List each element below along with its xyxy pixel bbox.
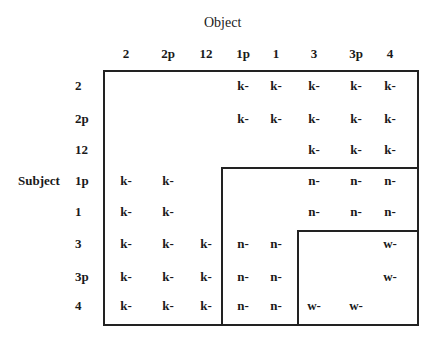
matrix-cell: n- xyxy=(228,236,258,252)
matrix-cell xyxy=(111,142,141,158)
matrix-cell: k- xyxy=(299,142,329,158)
row-header: 1 xyxy=(75,204,82,220)
matrix-cell: k- xyxy=(191,298,221,314)
column-header: 3p xyxy=(341,46,371,62)
matrix-cell: k- xyxy=(341,78,371,94)
column-header: 2p xyxy=(153,46,183,62)
matrix-cell: k- xyxy=(111,269,141,285)
matrix-cell: k- xyxy=(153,269,183,285)
matrix-cell: w- xyxy=(299,298,329,314)
row-header: 12 xyxy=(75,142,88,158)
column-header: 3 xyxy=(299,46,329,62)
matrix-cell xyxy=(228,142,258,158)
matrix-cell: n- xyxy=(299,173,329,189)
matrix-cell xyxy=(191,173,221,189)
matrix-cell xyxy=(191,111,221,127)
matrix-cell: k- xyxy=(111,204,141,220)
matrix-cell xyxy=(261,204,291,220)
matrix-cell xyxy=(228,173,258,189)
matrix-cell xyxy=(261,173,291,189)
row-header: 4 xyxy=(75,298,82,314)
matrix-cell: n- xyxy=(261,269,291,285)
column-header: 2 xyxy=(111,46,141,62)
column-header: 1p xyxy=(228,46,258,62)
object-axis-title: Object xyxy=(204,15,241,31)
matrix-cell xyxy=(191,204,221,220)
row-header: 2 xyxy=(75,78,82,94)
matrix-cell: k- xyxy=(375,78,405,94)
matrix-cell xyxy=(341,236,371,252)
matrix-cell xyxy=(261,142,291,158)
matrix-cell: n- xyxy=(228,269,258,285)
matrix-cell: k- xyxy=(153,173,183,189)
matrix-cell xyxy=(191,142,221,158)
matrix-cell: n- xyxy=(261,298,291,314)
matrix-cell: k- xyxy=(228,78,258,94)
matrix-cell: k- xyxy=(111,173,141,189)
matrix-cell: k- xyxy=(261,78,291,94)
matrix-cell: n- xyxy=(261,236,291,252)
matrix-cell: n- xyxy=(341,173,371,189)
matrix-cell xyxy=(341,269,371,285)
row-header: 3p xyxy=(75,269,89,285)
matrix-cell: w- xyxy=(341,298,371,314)
row-header: 1p xyxy=(75,173,89,189)
matrix-cell xyxy=(153,111,183,127)
matrix-cell: n- xyxy=(341,204,371,220)
matrix-cell xyxy=(191,78,221,94)
matrix-cell: w- xyxy=(375,269,405,285)
row-header: 2p xyxy=(75,111,89,127)
matrix-cell: k- xyxy=(261,111,291,127)
subject-axis-label: Subject xyxy=(18,173,60,189)
matrix-cell: k- xyxy=(375,111,405,127)
matrix-cell xyxy=(111,111,141,127)
matrix-cell: k- xyxy=(375,142,405,158)
matrix-cell: k- xyxy=(153,204,183,220)
matrix-cell: k- xyxy=(191,269,221,285)
matrix-cell: k- xyxy=(153,298,183,314)
matrix-cell: k- xyxy=(153,236,183,252)
column-header: 12 xyxy=(191,46,221,62)
matrix-cell: w- xyxy=(375,236,405,252)
matrix-cell xyxy=(153,78,183,94)
matrix-cell: n- xyxy=(228,298,258,314)
matrix-cell: k- xyxy=(111,298,141,314)
matrix-cell: n- xyxy=(299,204,329,220)
matrix-cell xyxy=(111,78,141,94)
matrix-cell xyxy=(228,204,258,220)
matrix-cell xyxy=(375,298,405,314)
matrix-cell: k- xyxy=(341,142,371,158)
matrix-cell: n- xyxy=(375,173,405,189)
matrix-cell xyxy=(299,236,329,252)
row-header: 3 xyxy=(75,236,82,252)
column-header: 4 xyxy=(375,46,405,62)
matrix-cell: k- xyxy=(299,111,329,127)
matrix-cell: k- xyxy=(299,78,329,94)
column-header: 1 xyxy=(261,46,291,62)
matrix-cell xyxy=(299,269,329,285)
matrix-cell xyxy=(153,142,183,158)
matrix-cell: k- xyxy=(191,236,221,252)
matrix-cell: k- xyxy=(228,111,258,127)
matrix-cell: k- xyxy=(111,236,141,252)
matrix-cell: n- xyxy=(375,204,405,220)
matrix-cell: k- xyxy=(341,111,371,127)
